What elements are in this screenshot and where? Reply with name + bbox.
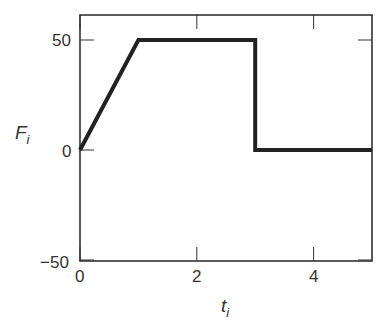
x-axis-label: ti (221, 296, 229, 319)
axes-frame (80, 15, 372, 261)
x-tick-label-0: 0 (75, 268, 84, 285)
x-tick-label-4: 4 (309, 268, 318, 285)
y-axis-label-main: F (15, 122, 27, 143)
axis-ticks (80, 15, 372, 261)
data-line (80, 40, 372, 150)
x-tick-label-2: 2 (192, 268, 201, 285)
y-axis-label: Fi (15, 123, 30, 146)
chart-container: 50 0 −50 0 2 4 Fi ti (0, 0, 383, 324)
y-tick-label-0: 0 (62, 143, 71, 160)
x-axis-label-subscript: i (226, 305, 229, 320)
y-tick-label-minus50: −50 (40, 254, 69, 271)
y-axis-label-subscript: i (27, 132, 30, 147)
y-tick-label-50: 50 (52, 32, 71, 49)
